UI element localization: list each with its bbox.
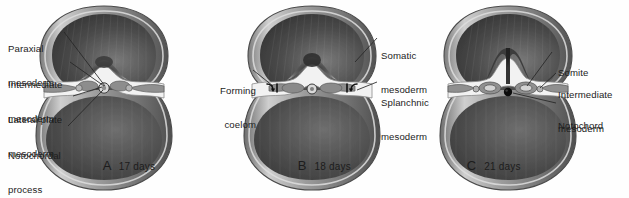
panel-a-17-days: Paraxial mesoderm Intermediate mesoderm … <box>0 0 210 198</box>
leader-intermediate <box>70 62 104 86</box>
leader-somatic-mesoderm <box>355 38 377 62</box>
caption-letter: A <box>103 158 119 173</box>
leader-intermediate-mesoderm <box>540 73 556 88</box>
caption-days: 21 days <box>484 161 520 172</box>
label-line-1: Paraxial <box>8 43 54 54</box>
panel-b-18-days: Forming coelom Somatic mesoderm Splanchn… <box>205 0 420 198</box>
label-line-2: process <box>8 184 61 195</box>
leader-notochordal <box>68 90 103 126</box>
label-forming-coelom: Forming coelom <box>200 62 256 153</box>
caption-days: 17 days <box>119 161 155 172</box>
label-notochord: Notochord <box>558 97 603 154</box>
label-line-1: Intermediate <box>8 79 63 90</box>
label-line-1: Notochord <box>558 120 603 131</box>
label-notochordal-process: Notochordal process <box>8 127 61 198</box>
label-line-1: Lateral plate <box>8 114 62 125</box>
leader-paraxial <box>64 32 105 86</box>
label-line-2: coelom <box>200 119 256 130</box>
leader-somite <box>527 52 552 86</box>
leader-notochord <box>513 93 556 103</box>
embryo-development-figure: Paraxial mesoderm Intermediate mesoderm … <box>0 0 629 198</box>
caption-days: 18 days <box>314 161 350 172</box>
panel-c-21-days: Somite Intermediate mesoderm Notochord C… <box>420 0 629 198</box>
leader-forming-coelom <box>253 70 273 86</box>
caption-panel-a: A 17 days <box>76 138 155 192</box>
leader-splanchnic-mesoderm <box>357 82 377 90</box>
leader-lateral-plate <box>73 87 102 96</box>
caption-panel-c: C 21 days <box>440 138 521 192</box>
caption-letter: C <box>467 158 485 173</box>
caption-panel-b: B 18 days <box>271 138 351 192</box>
caption-letter: B <box>298 158 315 173</box>
label-line-1: Notochordal <box>8 150 61 161</box>
label-line-1: Forming <box>200 85 256 96</box>
